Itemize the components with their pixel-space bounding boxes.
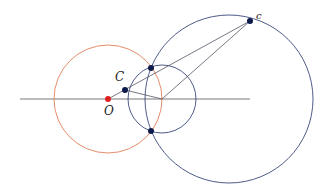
point-O [105,96,111,102]
point-C [122,87,128,93]
point-bottom-intersection [148,128,154,134]
label-C: C [115,71,124,83]
segment-O-to-c [108,21,250,99]
label-O: O [104,105,114,117]
point-c [247,18,253,24]
segment-C-to-center [125,90,162,99]
diagram-canvas [0,0,328,190]
geometry-diagram: O C c [0,0,328,190]
point-top-intersection [148,65,154,71]
segment-center-to-c [162,21,250,99]
label-c: c [256,11,262,21]
